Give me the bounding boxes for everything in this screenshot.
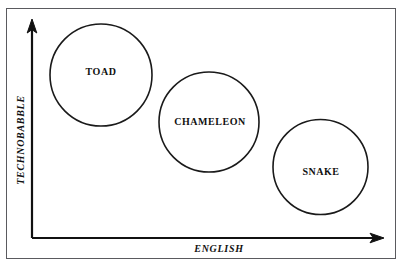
bubble-label-toad: TOAD bbox=[86, 66, 117, 77]
y-axis-title: TECHNOBABBLE bbox=[15, 95, 26, 185]
bubble-label-snake: SNAKE bbox=[302, 166, 339, 177]
figure-canvas: TOAD CHAMELEON SNAKE TECHNOBABBLE ENGLIS… bbox=[0, 0, 404, 268]
x-axis-title: ENGLISH bbox=[193, 243, 244, 254]
bubble-label-chameleon: CHAMELEON bbox=[174, 116, 246, 127]
bubble-chart: TOAD CHAMELEON SNAKE TECHNOBABBLE ENGLIS… bbox=[0, 0, 404, 268]
